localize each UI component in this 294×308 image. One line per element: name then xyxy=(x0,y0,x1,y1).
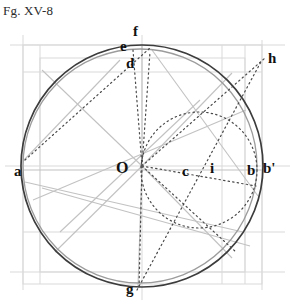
label-b-prime: b' xyxy=(263,161,276,176)
label-a: a xyxy=(14,164,22,179)
label-e: e xyxy=(120,39,127,54)
label-O: O xyxy=(116,160,128,176)
geometry-diagram xyxy=(0,0,294,308)
chord-lowerleft-to-upperright xyxy=(33,110,246,200)
center-point-marker xyxy=(140,164,143,167)
chord-left-edge-diag xyxy=(24,60,120,160)
label-h: h xyxy=(268,51,276,66)
dotted-O-to-e xyxy=(133,50,142,166)
label-d: d xyxy=(126,56,134,71)
label-f: f xyxy=(133,24,138,39)
label-i: i xyxy=(210,161,214,176)
label-c: c xyxy=(182,164,189,179)
chord-upperleft-to-lowerright xyxy=(42,188,250,246)
radial-O-to-lowerleft xyxy=(55,166,142,252)
label-g: g xyxy=(126,282,134,297)
figure-root: Fg. XV-8 xyxy=(0,0,294,308)
dotted-construction-lines xyxy=(25,48,265,290)
radial-O-to-upperright xyxy=(142,73,232,166)
label-b: b xyxy=(247,163,255,178)
chord-left-to-rightlow xyxy=(25,182,243,232)
